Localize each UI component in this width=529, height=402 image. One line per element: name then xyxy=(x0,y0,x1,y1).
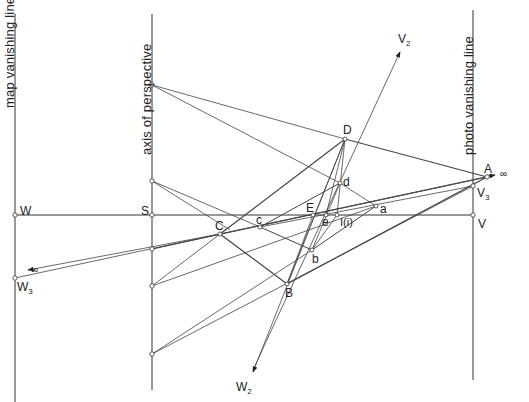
infinity-icon-left: ∞ xyxy=(31,265,38,275)
point-label-d: d xyxy=(343,176,350,188)
point-label-W3: W3 xyxy=(17,281,33,296)
point-label-A: A xyxy=(484,163,492,175)
point-label-b: b xyxy=(312,253,319,265)
point-label-I: I(i) xyxy=(340,217,353,228)
point-label-a: a xyxy=(380,203,387,215)
map-vanishing-line-label: map vanishing line xyxy=(2,0,17,108)
point-label-e: e xyxy=(322,216,329,228)
axis-of-perspective-label: axis of perspective xyxy=(139,44,154,155)
point-label-S: S xyxy=(141,205,149,217)
point-label-V3: V3 xyxy=(477,187,489,202)
point-label-C: C xyxy=(215,220,224,232)
infinity-icon-right: ∞ xyxy=(500,169,507,179)
point-label-c: c xyxy=(256,214,262,226)
diagram-lines xyxy=(0,0,529,402)
point-label-W: W xyxy=(20,205,31,217)
photo-vanishing-line-label: photo vanishing line xyxy=(461,36,476,155)
point-label-V2: V2 xyxy=(398,33,410,48)
point-label-D: D xyxy=(343,124,352,136)
point-label-E: E xyxy=(306,202,314,214)
point-label-B: B xyxy=(285,287,293,299)
point-label-V: V xyxy=(478,218,486,230)
perspective-diagram: map vanishing line axis of perspective p… xyxy=(0,0,529,402)
point-label-W2: W2 xyxy=(236,381,252,396)
